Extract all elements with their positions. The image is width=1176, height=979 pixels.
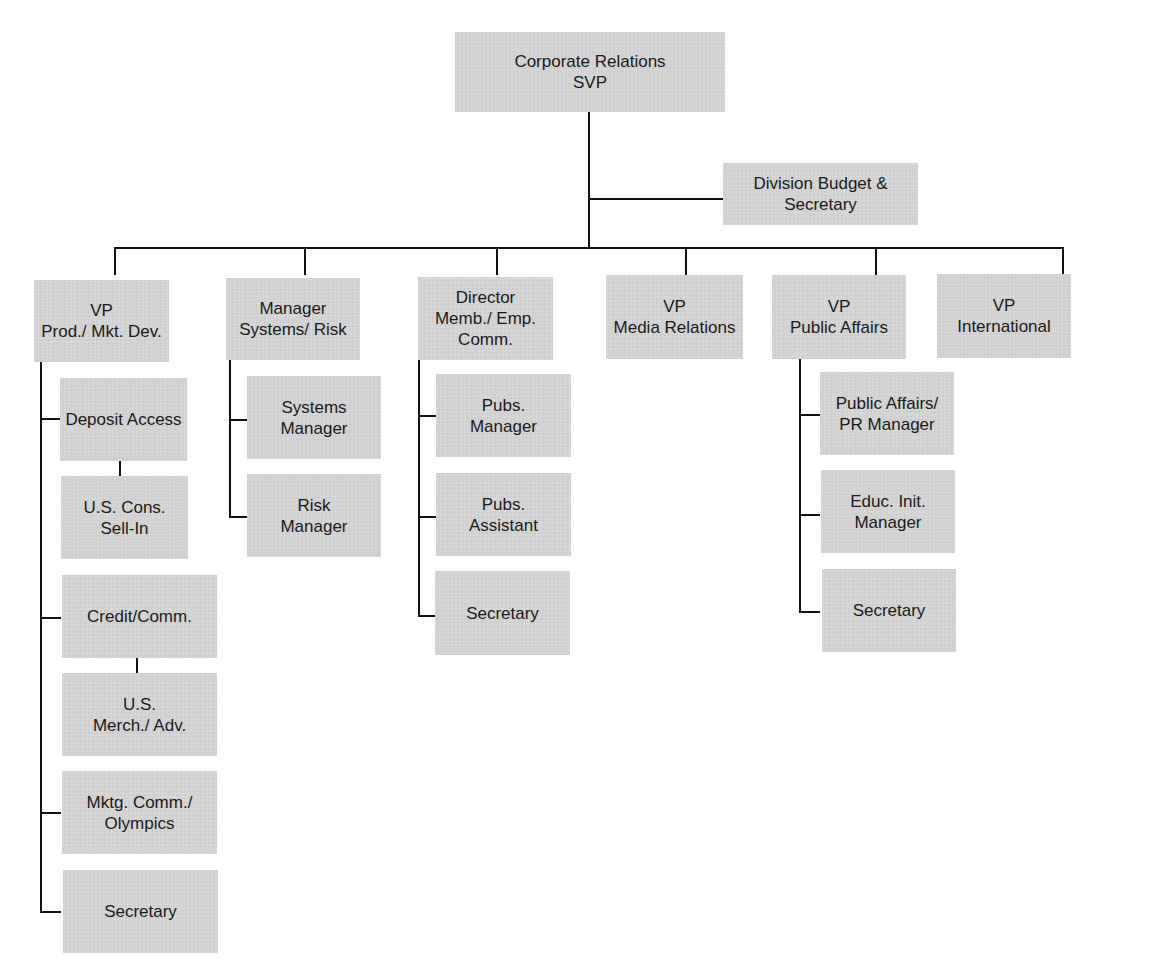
box-label: Systems Manager: [280, 397, 347, 439]
root-trunk-line: [588, 112, 590, 249]
box-systems-manager: Systems Manager: [247, 376, 381, 459]
prod-tick-credit: [40, 617, 61, 619]
box-risk-manager: Risk Manager: [247, 474, 381, 557]
division-label: VP International: [957, 295, 1051, 337]
deposit-sub-connector: [119, 461, 121, 476]
director-tick-pubs-manager: [418, 415, 437, 417]
box-label: Credit/Comm.: [87, 606, 192, 627]
box-public-secretary: Secretary: [822, 569, 956, 652]
root-label: Corporate Relations SVP: [514, 51, 665, 93]
systems-spine-line: [229, 360, 231, 518]
division-label: Director Memb./ Emp. Comm.: [435, 287, 536, 350]
box-label: Mktg. Comm./ Olympics: [87, 792, 193, 834]
box-label: Pubs. Manager: [470, 395, 537, 437]
box-label: Educ. Init. Manager: [850, 491, 926, 533]
division-box-systems-risk: Manager Systems/ Risk: [226, 278, 360, 360]
staff-box-division-budget: Division Budget & Secretary: [723, 163, 918, 225]
box-deposit-access: Deposit Access: [60, 378, 187, 461]
systems-tick-risk: [229, 516, 248, 518]
public-tick-pr-manager: [799, 414, 820, 416]
division-box-prod-mkt-dev: VP Prod./ Mkt. Dev.: [34, 280, 169, 362]
division-box-director-memb-emp: Director Memb./ Emp. Comm.: [418, 277, 553, 360]
drop-line-international: [1062, 247, 1064, 275]
staff-connector-line: [589, 198, 723, 200]
box-director-secretary: Secretary: [435, 571, 570, 655]
box-label: Pubs. Assistant: [469, 494, 538, 536]
root-box-svp: Corporate Relations SVP: [455, 32, 725, 112]
director-spine-line: [418, 360, 420, 617]
box-credit-comm: Credit/Comm.: [62, 575, 217, 658]
division-label: VP Public Affairs: [790, 296, 888, 338]
director-tick-pubs-assistant: [418, 516, 437, 518]
division-label: Manager Systems/ Risk: [239, 298, 347, 340]
box-label: U.S. Cons. Sell-In: [83, 497, 165, 539]
systems-tick-systems: [229, 419, 248, 421]
box-mktg-comm-olympics: Mktg. Comm./ Olympics: [62, 771, 217, 854]
box-us-merch-adv: U.S. Merch./ Adv.: [62, 673, 217, 756]
division-box-public-affairs: VP Public Affairs: [772, 275, 906, 359]
division-label: VP Prod./ Mkt. Dev.: [41, 300, 162, 342]
box-label: Deposit Access: [65, 409, 181, 430]
box-label: Secretary: [104, 901, 177, 922]
prod-tick-secretary: [40, 911, 61, 913]
drop-line-public: [875, 247, 877, 275]
division-box-international: VP International: [937, 274, 1071, 358]
box-us-cons-sell-in: U.S. Cons. Sell-In: [61, 476, 188, 559]
prod-spine-line: [40, 362, 42, 912]
box-public-affairs-pr-manager: Public Affairs/ PR Manager: [820, 372, 954, 455]
box-label: U.S. Merch./ Adv.: [93, 694, 186, 736]
division-box-media-relations: VP Media Relations: [606, 275, 743, 359]
drop-line-media: [685, 247, 687, 275]
division-label: VP Media Relations: [614, 296, 736, 338]
box-label: Secretary: [853, 600, 926, 621]
public-tick-educ-manager: [799, 514, 820, 516]
credit-sub-connector: [136, 658, 138, 673]
box-pubs-assistant: Pubs. Assistant: [436, 473, 571, 556]
org-chart: Corporate Relations SVP Division Budget …: [0, 0, 1176, 979]
box-label: Risk Manager: [280, 495, 347, 537]
public-spine-line: [799, 359, 801, 613]
box-prod-secretary: Secretary: [63, 870, 218, 953]
box-label: Secretary: [466, 603, 539, 624]
drop-line-prod: [114, 247, 116, 275]
drop-line-systems: [304, 247, 306, 275]
drop-line-director: [496, 247, 498, 275]
box-pubs-manager: Pubs. Manager: [436, 374, 571, 457]
prod-tick-mktg: [40, 812, 61, 814]
box-educ-init-manager: Educ. Init. Manager: [821, 470, 955, 553]
public-tick-secretary: [799, 611, 820, 613]
box-label: Public Affairs/ PR Manager: [836, 393, 939, 435]
division-bus-line: [114, 247, 1064, 249]
prod-tick-deposit: [40, 418, 61, 420]
staff-label: Division Budget & Secretary: [753, 173, 887, 215]
